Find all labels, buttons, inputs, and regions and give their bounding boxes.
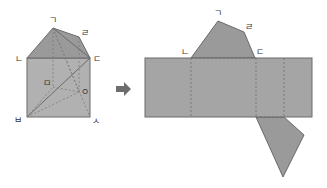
- label-o: ㅇ: [81, 87, 89, 97]
- label-n: ㄴ: [15, 54, 23, 64]
- net-label-d: ㄷ: [256, 47, 264, 57]
- label-g: ㄱ: [49, 15, 57, 25]
- label-b: ㅂ: [14, 115, 22, 125]
- net-side-strip: [145, 58, 312, 117]
- diagram-canvas: ㄱ ㄹ ㄴ ㄷ ㅁ ㅇ ㅂ ㅅ ㄱ ㄹ ㄴ ㄷ: [0, 0, 327, 188]
- label-s: ㅅ: [92, 116, 100, 126]
- label-r: ㄹ: [81, 28, 89, 38]
- solid-figure: ㄱ ㄹ ㄴ ㄷ ㅁ ㅇ ㅂ ㅅ: [14, 15, 101, 126]
- label-m: ㅁ: [43, 78, 51, 88]
- net-bottom-face: [256, 117, 304, 177]
- net-label-g: ㄱ: [214, 8, 222, 18]
- label-d: ㄷ: [93, 54, 101, 64]
- right-arrow-icon: [116, 82, 131, 96]
- net-label-r: ㄹ: [245, 22, 253, 32]
- net-figure: ㄱ ㄹ ㄴ ㄷ: [145, 8, 312, 177]
- net-label-n: ㄴ: [181, 47, 189, 57]
